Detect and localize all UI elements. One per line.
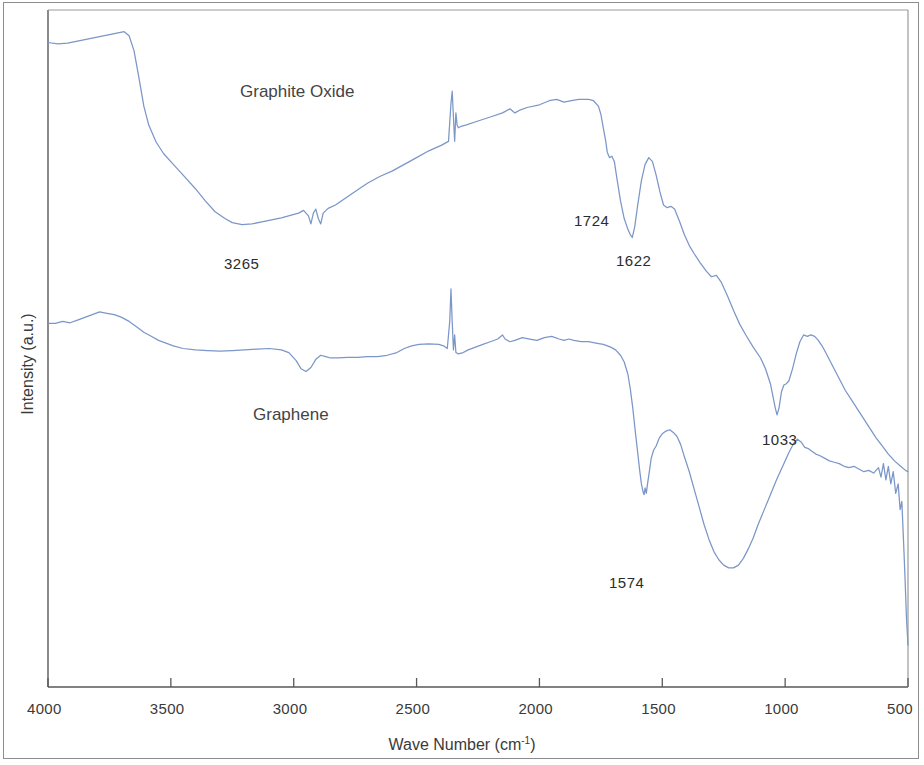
y-axis-title: Intensity (a.u.) bbox=[19, 274, 37, 454]
peak-1574-label: 1574 bbox=[609, 574, 644, 591]
peak-1724-label: 1724 bbox=[574, 212, 609, 229]
series-label-graphite-oxide: Graphite Oxide bbox=[240, 82, 354, 102]
x-axis-tick-label: 4000 bbox=[27, 700, 62, 717]
x-axis-title-main: Wave Number (cm bbox=[389, 736, 522, 753]
x-axis-title: Wave Number (cm-1) bbox=[0, 735, 924, 754]
x-axis-tick-label: 2000 bbox=[518, 700, 553, 717]
x-axis-title-tail: ) bbox=[530, 736, 535, 753]
peak-1033-label: 1033 bbox=[762, 431, 797, 448]
x-axis-tick-marks bbox=[48, 678, 908, 687]
peak-1622-label: 1622 bbox=[616, 252, 651, 269]
x-axis-tick-label: 3500 bbox=[150, 700, 185, 717]
spectrum-line-graphene bbox=[48, 289, 908, 645]
x-axis-tick-label: 1500 bbox=[641, 700, 676, 717]
x-axis-tick-label: 2500 bbox=[396, 700, 431, 717]
series-label-graphene: Graphene bbox=[253, 405, 329, 425]
x-axis-tick-label: 3000 bbox=[273, 700, 308, 717]
x-axis-tick-label: 500 bbox=[887, 700, 913, 717]
x-axis-tick-label: 1000 bbox=[764, 700, 799, 717]
figure-page: 4000350030002500200015001000500 Wave Num… bbox=[0, 0, 924, 765]
plot-canvas bbox=[0, 0, 924, 765]
spectrum-line-graphite-oxide bbox=[48, 32, 908, 472]
spectrum-traces bbox=[48, 32, 908, 645]
x-axis-title-exponent: -1 bbox=[521, 735, 530, 746]
peak-3265-label: 3265 bbox=[224, 255, 259, 272]
ftir-spectrum-chart: 4000350030002500200015001000500 Wave Num… bbox=[0, 0, 924, 765]
